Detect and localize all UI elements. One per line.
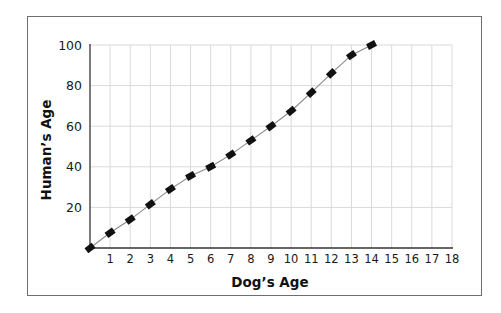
x-axis-ticks: 123456789101112131415161718 (106, 252, 459, 266)
data-point-marker (245, 135, 256, 145)
x-tick-label: 5 (187, 252, 194, 266)
data-point-marker (165, 184, 176, 194)
x-tick-label: 3 (147, 252, 154, 266)
x-tick-label: 11 (304, 252, 319, 266)
data-point-marker (205, 162, 216, 172)
y-tick-label: 20 (66, 200, 82, 215)
data-point-marker (125, 214, 136, 224)
x-tick-label: 6 (207, 252, 214, 266)
y-axis-title: Human’s Age (38, 100, 54, 201)
data-point-marker (225, 149, 236, 159)
y-axis-ticks: 20406080100 (58, 38, 82, 215)
x-tick-label: 13 (344, 252, 359, 266)
x-tick-label: 17 (425, 252, 440, 266)
y-tick-label: 80 (66, 78, 82, 93)
x-tick-label: 14 (364, 252, 379, 266)
x-tick-label: 10 (284, 252, 299, 266)
x-axis-title: Dog’s Age (231, 274, 308, 290)
y-tick-label: 100 (58, 38, 82, 53)
y-tick-label: 40 (66, 159, 82, 174)
data-point-marker (185, 171, 196, 181)
x-tick-label: 18 (445, 252, 460, 266)
x-tick-label: 15 (384, 252, 399, 266)
x-tick-label: 9 (267, 252, 274, 266)
line-chart: 123456789101112131415161718 20406080100 … (0, 0, 501, 313)
x-tick-label: 2 (127, 252, 134, 266)
data-point-marker (366, 40, 377, 50)
x-tick-label: 1 (106, 252, 113, 266)
data-point-marker (105, 228, 116, 238)
y-tick-label: 60 (66, 119, 82, 134)
x-tick-label: 12 (324, 252, 339, 266)
data-point-marker (84, 243, 95, 254)
data-point-marker (145, 199, 156, 210)
grid-lines (90, 45, 452, 248)
x-tick-label: 4 (167, 252, 174, 266)
x-tick-label: 16 (404, 252, 419, 266)
x-tick-label: 7 (227, 252, 234, 266)
data-point-marker (265, 121, 276, 131)
x-tick-label: 8 (247, 252, 254, 266)
